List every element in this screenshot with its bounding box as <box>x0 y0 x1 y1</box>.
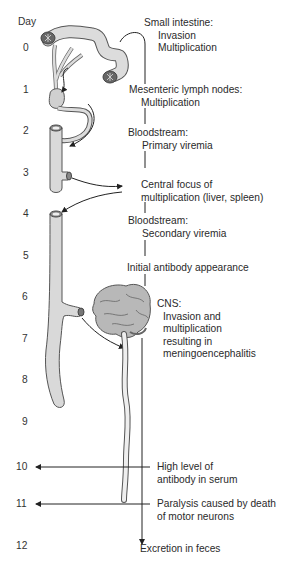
stage-high-antibody: High level of antibody in serum <box>157 461 237 486</box>
stage-central-focus: Central focus of multiplication (liver, … <box>141 179 263 204</box>
blood-vessel-primary-icon <box>50 125 72 193</box>
blood-vessel-secondary-icon <box>45 211 84 407</box>
spinal-cord-icon <box>124 334 128 500</box>
stage-excretion: Excretion in feces <box>140 543 220 556</box>
stage-paralysis: Paralysis caused by death of motor neuro… <box>157 498 276 523</box>
day-tick: 9 <box>22 416 28 427</box>
day-tick: 11 <box>16 498 27 509</box>
brain-icon <box>93 284 151 337</box>
day-tick: 10 <box>16 461 27 472</box>
day-tick: 7 <box>22 333 28 344</box>
stage-mesenteric-lymph-nodes: Mesenteric lymph nodes: Multiplication <box>129 84 242 109</box>
stage-small-intestine: Small intestine: Invasion Multiplication <box>144 17 217 55</box>
day-tick: 0 <box>23 42 29 53</box>
stage-cns: CNS: Invasion and multiplication resulti… <box>157 298 256 361</box>
day-tick: 2 <box>23 125 29 136</box>
day-tick: 4 <box>23 208 29 219</box>
pathogenesis-diagram: Day 0 1 2 3 4 5 6 7 8 9 10 11 12 Small i… <box>0 0 287 562</box>
stage-bloodstream-secondary: Bloodstream: Secondary viremia <box>128 215 226 240</box>
day-tick: 3 <box>23 167 29 178</box>
day-tick: 8 <box>22 374 28 385</box>
day-axis-label: Day <box>18 16 36 27</box>
stage-initial-antibody: Initial antibody appearance <box>127 262 249 275</box>
stage-bloodstream-primary: Bloodstream: Primary viremia <box>128 127 213 152</box>
day-tick: 5 <box>23 250 29 261</box>
day-tick: 12 <box>16 540 27 551</box>
day-tick: 6 <box>22 291 28 302</box>
day-tick: 1 <box>23 84 29 95</box>
